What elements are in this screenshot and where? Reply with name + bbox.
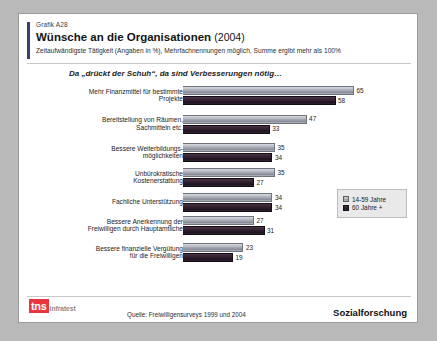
bar-value-label: 33: [272, 125, 279, 132]
category-label: Bessere Weiterbildungs-möglichkeiten: [53, 145, 183, 160]
category-label-line: Mehr Finanzmittel für bestimmte: [53, 88, 183, 96]
bar-value-label: 47: [309, 115, 316, 122]
source-note: Quelle: Freiwilligensurveys 1999 und 200…: [127, 311, 246, 318]
bar-fill: [183, 193, 272, 202]
bar-chart-plot: Mehr Finanzmittel für bestimmteProjekte6…: [19, 86, 419, 286]
bar-value-label: 35: [278, 169, 285, 176]
category-label: Mehr Finanzmittel für bestimmteProjekte: [53, 88, 183, 103]
title-accent-bar: [27, 22, 30, 59]
category-label-line: Bessere Anerkennung der: [53, 218, 183, 226]
category-label-line: Bessere Weiterbildungs-: [53, 145, 183, 153]
bar-fill: [183, 226, 265, 235]
bar-fill: [183, 86, 354, 95]
bar-fill: [183, 125, 270, 134]
bar-fill: [183, 153, 272, 162]
category-label-line: Bereitstellung von Räumen,: [53, 116, 183, 124]
legend-item: 14-59 Jahre: [343, 196, 402, 203]
bar-fill: [183, 143, 275, 152]
footer-divider: [27, 296, 411, 297]
logo-mark: tns: [29, 299, 49, 313]
page-subtitle: Zeitaufwändigste Tätigkeit (Angaben in %…: [36, 47, 341, 54]
category-label-line: Fachliche Unterstützung: [53, 198, 183, 206]
bar-fill: [183, 243, 243, 252]
bar-value-label: 27: [257, 179, 264, 186]
legend-item: 60 Jahre +: [343, 204, 402, 211]
slide-card: Grafik A28 Wünsche an die Organisationen…: [18, 13, 418, 323]
legend-item-label: 14-59 Jahre: [352, 196, 386, 203]
chart-leadin-text: Da „drückt der Schuh“, da sind Verbesser…: [69, 69, 282, 78]
division-label: Sozialforschung: [333, 307, 407, 318]
category-label-line: Projekte: [53, 95, 183, 103]
category-label: Fachliche Unterstützung: [53, 198, 183, 206]
legend-swatch-icon: [343, 205, 349, 211]
logo-wordmark: infratest: [50, 305, 76, 312]
category-label: Bessere Anerkennung derFreiwilligen durc…: [53, 218, 183, 233]
bar-value-label: 27: [257, 217, 264, 224]
bar-value-label: 58: [338, 97, 345, 104]
legend-swatch-icon: [343, 196, 349, 202]
bar-value-label: 34: [275, 204, 282, 211]
legend-item-label: 60 Jahre +: [352, 204, 382, 211]
bar-value-label: 31: [267, 227, 274, 234]
category-label-line: Kostenerstattung: [53, 177, 183, 185]
category-label: UnbürokratischeKostenerstattung: [53, 170, 183, 185]
bar-fill: [183, 96, 336, 105]
tns-infratest-logo: tns infratest: [29, 299, 76, 313]
category-label-line: Sachmitteln etc.: [53, 124, 183, 132]
chart-legend: 14-59 Jahre 60 Jahre +: [337, 189, 407, 218]
bar-value-label: 65: [356, 87, 363, 94]
category-label: Bessere finanzielle Vergütungfür die Fre…: [53, 245, 183, 260]
bar-fill: [183, 115, 307, 124]
bar-value-label: 34: [275, 154, 282, 161]
category-label-line: Bessere finanzielle Vergütung: [53, 245, 183, 253]
category-label-line: Unbürokratische: [53, 170, 183, 178]
bar-fill: [183, 168, 275, 177]
graph-id-label: Grafik A28: [36, 21, 68, 28]
bar-value-label: 35: [278, 144, 285, 151]
header-divider: [27, 63, 411, 64]
slide-header: Grafik A28 Wünsche an die Organisationen…: [27, 21, 411, 61]
page-title: Wünsche an die Organisationen (2004): [36, 31, 245, 43]
page-title-text: Wünsche an die Organisationen: [36, 31, 211, 43]
bar-fill: [183, 203, 272, 212]
category-label-line: Freiwilligen durch Hauptamtliche: [53, 225, 183, 233]
category-label-line: für die Freiwilligen: [53, 252, 183, 260]
bar-value-label: 19: [235, 254, 242, 261]
page-title-year: (2004): [214, 31, 244, 43]
bar-fill: [183, 178, 254, 187]
bar-fill: [183, 216, 254, 225]
bar-value-label: 23: [246, 244, 253, 251]
category-label: Bereitstellung von Räumen,Sachmitteln et…: [53, 116, 183, 131]
bar-value-label: 34: [275, 194, 282, 201]
bar-fill: [183, 253, 233, 262]
category-label-line: möglichkeiten: [53, 152, 183, 160]
